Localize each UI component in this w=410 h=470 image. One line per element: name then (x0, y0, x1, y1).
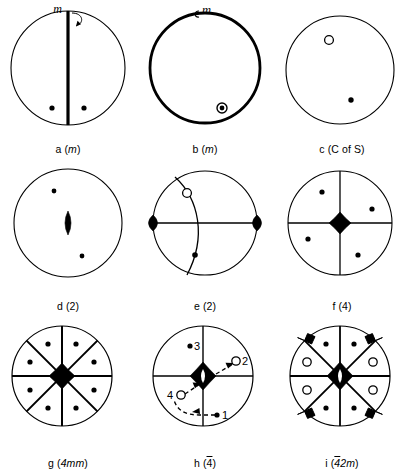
point-open-4 (177, 391, 185, 399)
panel-c: c (C of S) (274, 0, 410, 157)
point-filled-5 (27, 387, 32, 392)
panel-h: 3 2 4 1 h (4) (137, 314, 273, 470)
point-open-left-upper (303, 358, 311, 366)
point-filled-left (49, 105, 54, 110)
panel-f: f (4) (274, 157, 410, 314)
panel-f-diagram (274, 157, 410, 297)
panel-d-diagram (0, 157, 136, 297)
point-filled-1 (45, 341, 50, 346)
panel-g-caption-symbol: 4mm (61, 457, 85, 469)
mirror-label-m: m (202, 3, 211, 17)
panel-c-caption-symbol: C of S (331, 143, 361, 155)
panel-a-caption: a (m) (0, 143, 136, 155)
panel-d-caption: d (2) (0, 300, 136, 312)
point-filled-4 (91, 359, 96, 364)
panel-b-caption-symbol: m (205, 143, 214, 155)
symmetry-figure: m a (m) m b (m) c (C of S) (0, 0, 410, 470)
panel-a: m a (m) (0, 0, 136, 157)
point-filled-3 (27, 359, 32, 364)
point-filled-2 (73, 341, 78, 346)
point-filled-dot (348, 97, 353, 102)
panel-c-diagram (274, 0, 410, 140)
panel-e: e (2) (137, 157, 273, 314)
point-label-1: 1 (222, 409, 228, 421)
panel-g: g (4mm) (0, 314, 136, 470)
point-filled-3 (187, 343, 192, 348)
point-filled-q4 (355, 252, 360, 257)
point-filled-lower (80, 254, 85, 259)
twofold-axis-marker-right (253, 215, 262, 231)
point-filled-q3 (305, 236, 310, 241)
point-filled-q1 (369, 206, 374, 211)
point-label-2: 2 (242, 355, 248, 367)
panel-e-diagram (137, 157, 273, 297)
primitive-circle-bold (150, 13, 260, 123)
point-filled-dot (192, 252, 198, 258)
point-filled-top-right (351, 341, 356, 346)
panel-b-caption: b (m) (137, 143, 273, 155)
panel-g-diagram (0, 314, 136, 454)
twofold-axis-marker-left (149, 215, 158, 231)
point-label-4: 4 (167, 389, 173, 401)
panel-a-diagram: m (0, 0, 136, 140)
panel-d: d (2) (0, 157, 136, 314)
twofold-axis-lens-icon (65, 211, 71, 235)
arrow-1-to-4-head (192, 408, 200, 414)
point-open-circle (183, 189, 192, 198)
panel-f-caption: f (4) (274, 300, 410, 312)
arrow-1-to-4-arc (174, 400, 215, 415)
panel-h-diagram: 3 2 4 1 (137, 314, 273, 454)
panel-i: i (42m) (274, 314, 410, 470)
point-open-right-upper (369, 358, 377, 366)
point-open-right-lower (369, 386, 377, 394)
point-filled-8 (73, 405, 78, 410)
panel-b-diagram: m (137, 0, 273, 140)
point-open-2 (232, 357, 240, 365)
panel-i-caption: i (42m) (274, 457, 410, 469)
point-filled-6 (91, 387, 96, 392)
point-filled-1 (214, 412, 219, 417)
point-label-3: 3 (194, 340, 200, 352)
panel-g-caption: g (4mm) (0, 457, 136, 469)
point-filled-bottom-right (351, 405, 356, 410)
panel-c-caption: c (C of S) (274, 143, 410, 155)
mirror-label-m: m (53, 2, 62, 16)
point-filled-7 (45, 405, 50, 410)
point-open-circle (325, 36, 334, 45)
panel-b: m b (m) (137, 0, 273, 157)
point-filled-q2 (319, 189, 324, 194)
point-filled-top-left (323, 341, 328, 346)
point-filled-right (81, 105, 86, 110)
point-filled-bottom-left (323, 405, 328, 410)
point-filled-inner (220, 106, 225, 111)
fourfold-axis-diamond-icon (329, 212, 351, 234)
panel-a-caption-symbol: m (68, 143, 77, 155)
point-open-left-lower (303, 386, 311, 394)
primitive-circle (286, 16, 394, 124)
panel-i-diagram (274, 314, 410, 454)
point-filled-upper (52, 189, 57, 194)
panel-h-caption: h (4) (137, 457, 273, 469)
panel-e-caption: e (2) (137, 300, 273, 312)
